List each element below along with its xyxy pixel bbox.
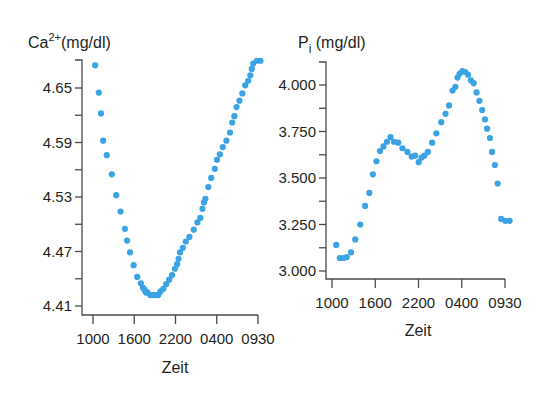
data-point [484, 126, 490, 132]
data-point [487, 135, 493, 141]
data-point [482, 116, 488, 122]
data-point [452, 84, 458, 90]
x-tick-label: 1600 [359, 294, 392, 311]
data-point [471, 80, 477, 86]
data-point [425, 149, 431, 155]
x-tick-label: 0400 [445, 294, 478, 311]
phosphate-y-axis-title: Pi (mg/dl) [298, 34, 366, 56]
data-point [473, 89, 479, 95]
data-point [446, 102, 452, 108]
data-point [429, 140, 435, 146]
data-point [357, 221, 363, 227]
phosphate-chart-svg: Pi (mg/dl) 4.0003.7503.5003.2503.0001000… [0, 0, 548, 395]
data-point [507, 218, 513, 224]
data-point [412, 153, 418, 159]
y-tick-label: 3.750 [278, 123, 316, 140]
y-tick-label: 3.250 [278, 216, 316, 233]
x-tick-label: 2200 [402, 294, 435, 311]
y-tick-label: 3.500 [278, 169, 316, 186]
phosphate-axes: 4.0003.7503.5003.2503.000100016002200040… [278, 62, 521, 311]
data-point [352, 236, 358, 242]
x-tick-label: 0930 [488, 294, 521, 311]
data-point [465, 72, 471, 78]
data-point [404, 149, 410, 155]
data-point [489, 149, 495, 155]
data-point [362, 203, 368, 209]
data-point [492, 162, 498, 168]
data-point [476, 98, 482, 104]
data-point [399, 145, 405, 151]
y-tick-label: 3.000 [278, 262, 316, 279]
x-tick-label: 1000 [315, 294, 348, 311]
data-point [433, 130, 439, 136]
data-point [344, 254, 350, 260]
data-point [479, 107, 485, 113]
data-point [370, 171, 376, 177]
data-point [438, 119, 444, 125]
data-point [348, 249, 354, 255]
data-point [442, 111, 448, 117]
data-point [333, 242, 339, 248]
data-point [395, 140, 401, 146]
data-point [495, 180, 501, 186]
phosphate-data-points [333, 68, 513, 261]
phosphate-x-axis-title: Zeit [405, 322, 432, 339]
y-tick-label: 4.000 [278, 76, 316, 93]
data-point [373, 158, 379, 164]
data-point [366, 190, 372, 196]
